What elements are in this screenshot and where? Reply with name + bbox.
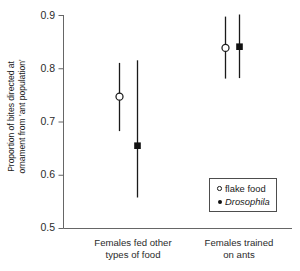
y-tick-label-0.6: 0.6 — [29, 168, 55, 180]
x-category-label-2: Females trained on ants — [179, 237, 299, 260]
datapoint-group1-flake-food — [116, 63, 123, 131]
x-category-label-1-line-1: Females fed other — [73, 237, 193, 249]
open-circle-icon — [214, 186, 225, 191]
figure-container: Proportion of bites directed at ornament… — [0, 0, 300, 271]
legend-item-drosophila: Drosophila — [214, 195, 270, 208]
marker-filled-square-group1 — [134, 142, 141, 149]
y-tick-label-0.8: 0.8 — [29, 62, 55, 74]
y-tick-label-0.7: 0.7 — [29, 115, 55, 127]
legend: flake food Drosophila — [209, 178, 277, 212]
x-category-label-2-line-1: Females trained — [179, 237, 299, 249]
y-axis-ticks — [59, 16, 64, 229]
marker-open-circle-group1 — [116, 93, 123, 100]
marker-open-circle-group2 — [222, 44, 229, 51]
filled-circle-icon — [214, 200, 225, 204]
legend-item-flake-food: flake food — [214, 182, 270, 195]
datapoint-group2-drosophila — [236, 15, 243, 79]
x-category-label-2-line-2: on ants — [179, 249, 299, 261]
marker-filled-square-group2 — [236, 43, 243, 50]
datapoint-group2-flake-food — [222, 17, 229, 79]
x-category-label-1: Females fed other types of food — [73, 237, 193, 260]
datapoint-group1-drosophila — [134, 60, 141, 197]
y-tick-label-0.5: 0.5 — [29, 221, 55, 233]
legend-label-flake-food: flake food — [225, 183, 266, 194]
x-category-label-1-line-2: types of food — [73, 249, 193, 261]
y-tick-label-0.9: 0.9 — [29, 9, 55, 21]
legend-label-drosophila: Drosophila — [225, 196, 270, 207]
